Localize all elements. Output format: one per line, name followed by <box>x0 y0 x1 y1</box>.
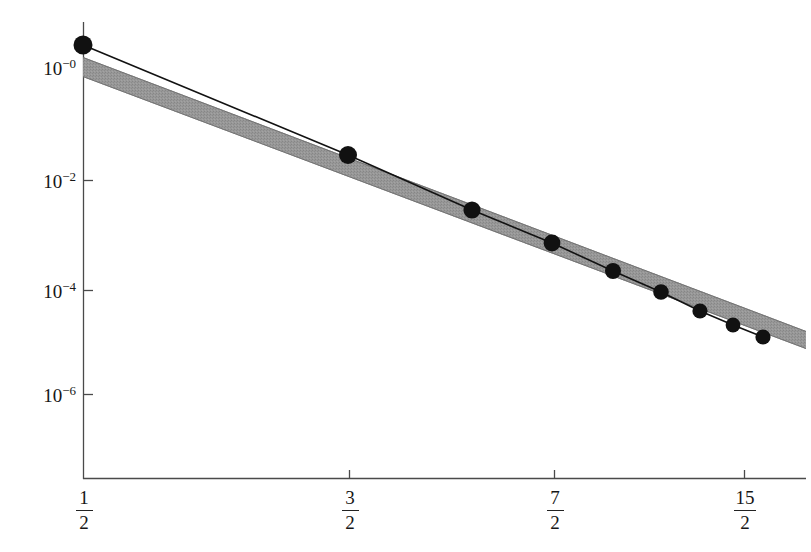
data-point[interactable] <box>544 235 561 252</box>
x-tick-label-0: 1 2 <box>54 488 114 533</box>
y-tick-label-0: 10−0 <box>18 57 76 78</box>
y-tick-mantissa: 10 <box>43 171 62 192</box>
chart-figure: 10−0 10−2 10−4 10−6 1 2 3 2 7 2 15 2 <box>0 0 811 552</box>
x-tick-numerator: 1 <box>54 488 114 509</box>
x-tick-denominator: 2 <box>320 513 380 533</box>
y-tick-mantissa: 10 <box>43 58 62 79</box>
data-point[interactable] <box>726 318 741 333</box>
fraction-bar <box>547 510 564 511</box>
x-tick-numerator: 7 <box>525 488 585 509</box>
y-tick-exponent: −0 <box>62 56 76 71</box>
y-tick-exponent: −2 <box>62 169 76 184</box>
data-point[interactable] <box>755 329 770 344</box>
x-tick-label-1: 3 2 <box>320 488 380 533</box>
data-point[interactable] <box>692 303 707 318</box>
y-tick-mantissa: 10 <box>43 385 62 406</box>
data-point[interactable] <box>463 201 480 218</box>
x-tick-numerator: 15 <box>715 488 775 509</box>
data-point[interactable] <box>605 263 621 279</box>
y-tick-label-1: 10−2 <box>18 170 76 191</box>
x-tick-marks <box>84 470 745 479</box>
data-point[interactable] <box>74 36 93 55</box>
x-tick-denominator: 2 <box>54 513 114 533</box>
fraction-bar <box>734 510 756 511</box>
x-tick-label-3: 15 2 <box>715 488 775 533</box>
data-point[interactable] <box>339 146 357 164</box>
y-tick-label-2: 10−4 <box>18 280 76 301</box>
y-tick-label-3: 10−6 <box>18 384 76 405</box>
y-tick-mantissa: 10 <box>43 281 62 302</box>
y-tick-marks <box>83 68 93 395</box>
fraction-bar <box>342 510 359 511</box>
data-point[interactable] <box>653 284 669 300</box>
x-tick-label-2: 7 2 <box>525 488 585 533</box>
y-tick-exponent: −6 <box>62 383 76 398</box>
x-tick-denominator: 2 <box>715 513 775 533</box>
plot-canvas <box>0 0 811 552</box>
x-tick-numerator: 3 <box>320 488 380 509</box>
fraction-bar <box>76 510 93 511</box>
y-tick-exponent: −4 <box>62 279 76 294</box>
x-tick-denominator: 2 <box>525 513 585 533</box>
